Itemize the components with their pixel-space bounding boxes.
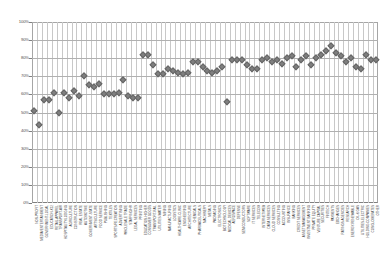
y-axis-tick-label: 90% [0,38,29,42]
x-axis-tick-label: LEGAL SERVICES [135,205,138,231]
plot-wrapper [32,22,378,203]
x-axis-tick-label: CLOUD SERVICES [273,205,276,232]
x-axis-tick-label: TEXTILES [110,205,113,219]
y-axis-tick-mark [29,22,32,23]
x-axis-tick-label: PACKAGING [214,205,217,223]
x-axis-tick-label: MACHINERY [204,205,207,223]
x-axis-tick-label: BIOTECHNOLOGY [224,205,227,231]
x-axis-tick-label: ARTS/CULTURE [95,205,98,228]
x-axis-tick-label: ASSET MANAGEMENT [303,205,306,237]
x-axis-tick-label: WHOLESALE TRADE [125,205,128,235]
x-axis-tick-label: ENERGY-RENEWABLE [352,205,355,237]
gridline-horizontal [32,94,378,95]
x-axis-tick-label: OTHER [377,205,380,216]
gridline-horizontal [32,185,378,186]
y-axis-tick-label: 70% [0,74,29,78]
x-axis-tick-label: CHEMICALS [194,205,197,223]
y-axis-tick-label: 60% [0,92,29,96]
y-axis-tick-label: 10% [0,183,29,187]
y-axis-tick-mark [29,131,32,132]
x-axis-tick-label: BANKING [293,205,296,219]
x-axis-tick-label: UTILITIES-ELECTRIC [362,205,365,235]
x-axis-tick-label: ENGINEERING [184,205,187,226]
x-axis-tick-label: ARCHITECTURE [189,205,192,229]
y-axis-tick-label: 40% [0,129,29,133]
x-axis-tick-label: METALS [209,205,212,217]
y-axis-tick-label: 0% [0,201,29,205]
gridline-horizontal [32,167,378,168]
x-axis-tick-label: HEALTHCARE-CLINIC [179,205,182,236]
x-axis-tick-label: DATA SERVICES [268,205,271,228]
y-axis-tick-mark [29,113,32,114]
gridline-horizontal [32,58,378,59]
x-axis-tick-label: HOLDING COMPANIES [367,205,370,237]
gridline-horizontal [32,149,378,150]
x-axis-tick-label: FOOD SERVICE [100,205,103,228]
x-axis-tick-label: PUBLISHING [105,205,108,223]
x-axis-tick-label: PRIVATE EQUITY [313,205,316,229]
y-axis-tick-label: 100% [0,20,29,24]
y-axis-tick-mark [29,203,32,204]
x-axis-tick-label: INSURANCE [288,205,291,223]
y-axis-tick-label: 20% [0,165,29,169]
y-axis-tick-label: 50% [0,111,29,115]
x-axis-tick-label: MEDIA/ENTERTAINMENT [41,205,44,241]
y-axis-tick-label: 30% [0,147,29,151]
x-axis-tick-label: CONSULTING [278,205,281,225]
x-axis-tick-label: CREDIT SERVICES [298,205,301,232]
gridline-horizontal [32,113,378,114]
x-axis-tick-label: ELECTRONICS [219,205,222,226]
scatter-chart: 0%10%20%30%40%50%60%70%80%90%100% NON-PR… [0,0,387,256]
gridline-horizontal [32,40,378,41]
x-axis-tick-label: SPORTS/RECREATION [115,205,118,238]
x-axis-tick-label: ACCOUNTING [283,205,286,225]
y-axis-tick-mark [29,167,32,168]
y-axis-tick-mark [29,76,32,77]
y-axis-tick-mark [29,94,32,95]
x-axis-tick-label: GOVERNMENT-LOCAL [46,205,49,237]
x-axis-tick-label: NON-PROFIT [36,205,39,224]
y-axis-tick-mark [29,58,32,59]
x-axis-tick-label: CONGLOMERATES [372,205,375,232]
y-axis-tick-label: 80% [0,56,29,60]
y-axis-tick-mark [29,40,32,41]
x-axis-tick-label: ADVERTISING [120,205,123,225]
x-axis-tick-label: INVESTMENT BANKING [308,205,311,239]
x-axis-tick-label: OIL & GAS [357,205,360,220]
x-axis-tick-label: PRINTING [140,205,143,219]
y-axis-tick-mark [29,185,32,186]
gridline-horizontal [32,131,378,132]
x-axis-tick-label: PHARMACEUTICALS [199,205,202,235]
y-axis-tick-mark [29,149,32,150]
x-axis-tick-label: EDUCATION-K12 [51,205,54,229]
x-axis-tick-label: STAFFING/HR [130,205,133,225]
x-axis-labels: NON-PROFITMEDIA/ENTERTAINMENTGOVERNMENT-… [32,205,378,255]
